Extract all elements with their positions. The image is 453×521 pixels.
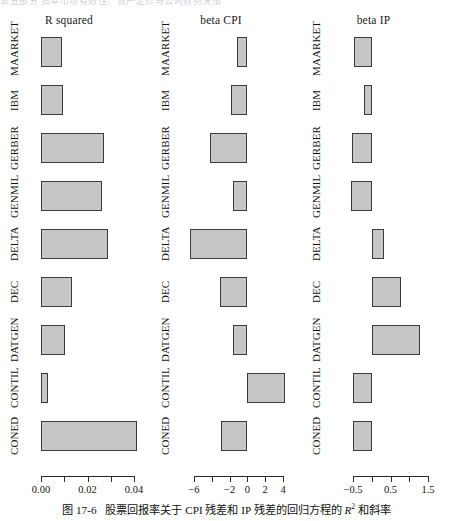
- axis-tick-label: 0.00: [32, 484, 50, 495]
- x-axis: [194, 476, 283, 482]
- panel-title: beta IP: [302, 14, 453, 26]
- axis-tick: [283, 476, 284, 482]
- bar: [372, 277, 401, 307]
- axis-tick: [230, 476, 231, 482]
- axis-tick: [353, 476, 354, 482]
- bar: [233, 181, 247, 211]
- category-label: DATGEN: [159, 316, 171, 364]
- plot-area: MAARKETIBMGERBERGENMILDELTADECDATGENCONT…: [151, 28, 301, 460]
- axis-tick: [212, 476, 213, 482]
- category-label: MAARKET: [310, 28, 322, 76]
- axis-tick-label: 0.5: [384, 484, 397, 495]
- category-label: DEC: [8, 268, 20, 316]
- bar: [190, 229, 247, 259]
- bar: [351, 181, 372, 211]
- bar: [364, 85, 372, 115]
- bar: [221, 421, 248, 451]
- bar: [352, 133, 372, 163]
- bar: [41, 229, 108, 259]
- page-header-strip: 第五部分 资本市场有效性、资产定价与公司财务决策: [0, 0, 453, 11]
- axis-tick: [409, 476, 410, 482]
- bar: [372, 229, 384, 259]
- category-label: GENMIL: [8, 172, 20, 220]
- axis-tick: [134, 476, 135, 482]
- bar: [41, 37, 62, 67]
- chart-panel-beta-cpi: beta CPI MAARKETIBMGERBERGENMILDELTADECD…: [151, 14, 301, 484]
- x-axis: [353, 476, 428, 482]
- bar: [41, 85, 63, 115]
- bar: [41, 133, 104, 163]
- category-label: CONED: [159, 412, 171, 460]
- caption-text-before: 股票回报率关于 CPI 残差和 IP 残差的回归方程的: [105, 504, 344, 516]
- category-label: CONTIL: [159, 364, 171, 412]
- category-label: GERBER: [159, 124, 171, 172]
- category-label: GENMIL: [159, 172, 171, 220]
- category-label: DEC: [310, 268, 322, 316]
- category-label: DATGEN: [310, 316, 322, 364]
- chart-panel-r-squared: R squared MAARKETIBMGERBERGENMILDELTADEC…: [0, 14, 150, 484]
- axis-tick: [64, 476, 65, 482]
- category-label: DATGEN: [8, 316, 20, 364]
- axis-tick-label: 2: [263, 484, 268, 495]
- bar: [41, 277, 72, 307]
- bar: [353, 421, 372, 451]
- category-label: CONED: [8, 412, 20, 460]
- category-label: DEC: [159, 268, 171, 316]
- category-label: DELTA: [310, 220, 322, 268]
- axis-line: [194, 476, 283, 477]
- bar: [41, 421, 137, 451]
- bar: [220, 277, 248, 307]
- figure-17-6: 第五部分 资本市场有效性、资产定价与公司财务决策 R squared MAARK…: [0, 0, 453, 521]
- category-label: MAARKET: [8, 28, 20, 76]
- bar: [41, 181, 102, 211]
- x-axis: [41, 476, 134, 482]
- plot-area: MAARKETIBMGERBERGENMILDELTADECDATGENCONT…: [302, 28, 453, 460]
- axis-tick: [391, 476, 392, 482]
- axis-tick-label: 4: [280, 484, 285, 495]
- category-label: DELTA: [8, 220, 20, 268]
- bar: [354, 37, 372, 67]
- axis-tick-label: 0.02: [78, 484, 96, 495]
- axis-tick-label: 0.04: [125, 484, 143, 495]
- category-label: GERBER: [8, 124, 20, 172]
- category-label: CONTIL: [8, 364, 20, 412]
- axis-tick: [265, 476, 266, 482]
- axis-tick: [428, 476, 429, 482]
- figure-number: 图 17-6: [62, 504, 96, 516]
- category-label: MAARKET: [159, 28, 171, 76]
- page-header-text: 第五部分 资本市场有效性、资产定价与公司财务决策: [0, 0, 453, 7]
- bar: [210, 133, 247, 163]
- bar: [41, 325, 65, 355]
- figure-caption: 图 17-6股票回报率关于 CPI 残差和 IP 残差的回归方程的 R2 和斜率: [0, 501, 453, 517]
- axis-tick-label: −2: [224, 484, 235, 495]
- bar: [353, 373, 372, 403]
- axis-tick: [111, 476, 112, 482]
- panel-title: beta CPI: [151, 14, 301, 26]
- axis-tick-label: −6: [188, 484, 199, 495]
- axis-tick: [247, 476, 248, 482]
- caption-text-after: 和斜率: [355, 504, 391, 516]
- axis-tick: [88, 476, 89, 482]
- category-label: GERBER: [310, 124, 322, 172]
- bar: [231, 85, 247, 115]
- panel-title: R squared: [0, 14, 150, 26]
- chart-panel-beta-ip: beta IP MAARKETIBMGERBERGENMILDELTADECDA…: [302, 14, 453, 484]
- category-label: IBM: [8, 76, 20, 124]
- bar: [233, 325, 247, 355]
- category-label: CONTIL: [310, 364, 322, 412]
- axis-tick-label: −0.5: [343, 484, 362, 495]
- axis-tick: [194, 476, 195, 482]
- category-label: CONED: [310, 412, 322, 460]
- bar: [247, 373, 284, 403]
- axis-tick-label: 1.5: [421, 484, 434, 495]
- axis-tick-label: 0: [245, 484, 250, 495]
- bar: [41, 373, 48, 403]
- axis-tick: [372, 476, 373, 482]
- plot-area: MAARKETIBMGERBERGENMILDELTADECDATGENCONT…: [0, 28, 150, 460]
- category-label: IBM: [159, 76, 171, 124]
- category-label: DELTA: [159, 220, 171, 268]
- category-label: IBM: [310, 76, 322, 124]
- bar: [237, 37, 248, 67]
- category-label: GENMIL: [310, 172, 322, 220]
- axis-tick: [41, 476, 42, 482]
